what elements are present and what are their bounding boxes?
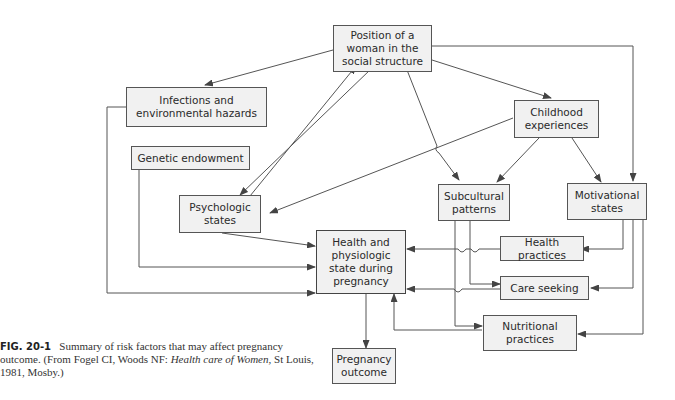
caption-source-title: Health care of Women,: [171, 353, 272, 365]
node-motivational-states: Motivational states: [567, 183, 647, 220]
figure-label: FIG. 20-1: [0, 341, 51, 352]
node-pregnancy-outcome: Pregnancy outcome: [332, 348, 396, 384]
node-nutritional-practices: Nutritional practices: [483, 315, 577, 351]
node-care-seeking: Care seeking: [500, 276, 589, 300]
node-health-physiologic-state: Health and physiologic state during preg…: [316, 230, 406, 294]
node-genetic-endowment: Genetic endowment: [131, 146, 250, 170]
node-infections-environmental-hazards: Infections and environmental hazards: [126, 87, 267, 127]
node-subcultural-patterns: Subcultural patterns: [438, 184, 510, 221]
node-health-practices: Health practices: [500, 236, 584, 261]
node-childhood-experiences: Childhood experiences: [514, 100, 599, 138]
node-psychologic-states: Psychologic states: [179, 195, 261, 233]
figure-caption: FIG. 20-1 Summary of risk factors that m…: [0, 340, 320, 379]
node-position-in-social-structure: Position of a woman in the social struct…: [333, 25, 432, 72]
